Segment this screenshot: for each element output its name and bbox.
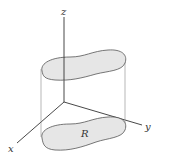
z-axis-label: z [60,6,67,17]
top-surface [42,50,126,80]
y-axis-label: y [144,121,151,132]
x-axis-label: x [8,143,14,154]
region-label: R [80,128,89,139]
diagram-canvas: z y x R [0,0,169,157]
